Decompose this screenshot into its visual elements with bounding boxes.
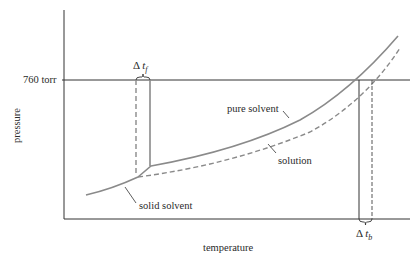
vapor-pressure-diagram (0, 0, 420, 263)
solid-solvent-label: solid solvent (139, 201, 192, 212)
delta-tf-label: Δ tf (133, 60, 148, 74)
delta-symbol: Δ (133, 59, 139, 71)
subscript-f: f (145, 65, 147, 74)
delta-symbol: Δ (356, 227, 362, 239)
delta-tb-brace (359, 219, 372, 225)
pure-solvent-leader (283, 111, 289, 118)
delta-tb-label: Δ tb (356, 228, 372, 242)
x-axis-label: temperature (203, 243, 253, 254)
delta-tf-brace (136, 74, 150, 80)
subscript-b: b (368, 233, 372, 242)
y-tick-760-torr: 760 torr (23, 75, 57, 86)
solution-label: solution (278, 156, 312, 167)
solid-solvent-leader (125, 187, 136, 203)
solid-solvent-curve (86, 177, 138, 195)
pure-solvent-label: pure solvent (227, 104, 279, 115)
y-axis-label: pressure (12, 108, 23, 143)
